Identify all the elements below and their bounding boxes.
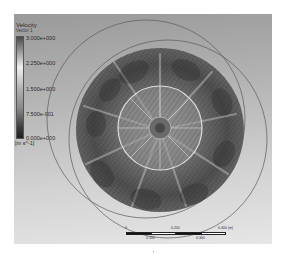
scale-label-300: 0.300 [196,236,205,240]
scale-label-200: 0.200 [171,226,180,230]
scale-label-400: 0.400 (m) [218,226,233,230]
scale-bar: 0 0.200 0.400 (m) 0.100 0.300 [126,226,226,242]
scale-bar-segment-3 [176,232,201,235]
scale-bar-segment-2 [151,232,176,235]
scale-bar-segment-1 [126,232,151,235]
stray-dot [153,251,154,252]
cfd-plot-panel: Velocity Vector 1 3.000e+000 2.250e+000 … [14,14,272,244]
velocity-vector-field [14,14,272,244]
scale-bar-segment-4 [201,232,226,235]
scale-label-0: 0 [125,226,127,230]
scale-label-100: 0.100 [146,236,155,240]
